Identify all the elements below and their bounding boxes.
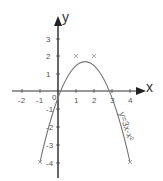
y-tick-label: 1 — [46, 70, 51, 79]
chart-canvas: x y -2 -1 0 1 2 3 4 3 2 1 -1 -2 -3 -4 — [0, 0, 163, 181]
marker-icon — [92, 54, 96, 58]
curve-equation-label: y=3x-x² — [117, 111, 136, 142]
origin-label: 0 — [52, 93, 57, 102]
parabola-curve — [40, 62, 130, 162]
x-tick-label: 4 — [128, 96, 133, 105]
marker-icon — [74, 54, 78, 58]
y-tick-label: -3 — [46, 141, 54, 150]
y-tick-label: -4 — [46, 159, 54, 168]
y-axis-label: y — [62, 9, 69, 25]
y-axis-arrow-icon — [54, 16, 62, 26]
x-tick-label: -1 — [36, 96, 44, 105]
x-tick-label: 2 — [92, 96, 97, 105]
x-tick-label: -2 — [18, 96, 26, 105]
y-tick-label: 2 — [46, 52, 51, 61]
y-tick-label: 3 — [46, 35, 51, 44]
x-tick-label: 1 — [74, 96, 79, 105]
x-axis-label: x — [146, 79, 153, 95]
x-axis-arrow-icon — [136, 87, 146, 95]
